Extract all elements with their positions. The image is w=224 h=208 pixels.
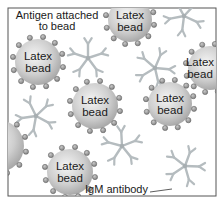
antigen-dot xyxy=(109,1,114,6)
antigen-dot xyxy=(51,189,56,194)
antigen-dot xyxy=(104,25,109,30)
antigen-dot xyxy=(60,51,65,56)
bead-label: Latexbead xyxy=(150,92,190,116)
bead-label-line1: Latex xyxy=(75,94,115,106)
antigen-dot xyxy=(189,49,194,54)
antigen-dot xyxy=(135,41,140,46)
antigen-dot xyxy=(175,125,180,130)
bead-label: Latexbead xyxy=(110,9,150,33)
antigen-dot xyxy=(151,22,156,27)
antigen-dot xyxy=(149,85,154,90)
antigen-dot xyxy=(22,134,27,139)
antigen-dot xyxy=(4,170,9,175)
antigen-dot xyxy=(112,120,117,125)
antigen-dot xyxy=(30,84,35,89)
antigen-dot xyxy=(191,106,196,111)
antigen-dot xyxy=(163,125,168,130)
antigen-dot xyxy=(55,76,60,81)
bead-label-line2: bead xyxy=(50,172,90,184)
bead-label: Latexbead xyxy=(75,94,115,118)
antigen-dot xyxy=(203,89,208,94)
antigen-dot xyxy=(103,13,108,18)
bead-label-line2: bead xyxy=(110,21,150,33)
antigen-dot xyxy=(144,109,149,114)
antigen-dot xyxy=(68,112,73,117)
antigen-dot xyxy=(117,108,122,113)
antigen-dot xyxy=(52,40,57,45)
antigen-dot xyxy=(160,78,165,83)
antigen-label: Antigen attached to bead xyxy=(14,10,100,32)
bead-label-line1: Latex xyxy=(18,50,58,62)
antigen-dot xyxy=(16,43,21,48)
antigen-dot xyxy=(10,54,15,59)
antigen-dot xyxy=(40,34,45,39)
bead-label-line2: bead xyxy=(150,104,190,116)
antigen-dot xyxy=(212,41,217,46)
antigen-dot xyxy=(87,128,92,133)
antigen-dot xyxy=(184,83,189,88)
antigen-dot xyxy=(109,84,114,89)
antigen-dot xyxy=(43,178,48,183)
antigen-label-line2: to bead xyxy=(14,21,100,32)
antigen-dot xyxy=(146,34,151,39)
bead-label-line1: Latex xyxy=(110,9,150,21)
antigen-dot xyxy=(27,35,32,40)
antigen-dot xyxy=(44,84,49,89)
antigen-dot xyxy=(17,162,22,167)
antigen-dot xyxy=(19,79,24,84)
bead-label-line1: Latex xyxy=(180,56,220,68)
bead-label: Latexbead xyxy=(180,56,220,80)
antigen-dot xyxy=(92,161,97,166)
bead-label: Latexbead xyxy=(50,160,90,184)
antigen-dot xyxy=(123,41,128,46)
antigen-dot xyxy=(60,64,65,69)
bead-label-line1: Latex xyxy=(50,160,90,172)
antigen-dot xyxy=(191,84,196,89)
antigen-dot xyxy=(101,128,106,133)
igm-antibody-label: IgM antibody xyxy=(85,184,148,195)
antigen-dot xyxy=(59,145,64,150)
antigen-dot xyxy=(84,150,89,155)
antigen-dot xyxy=(191,94,196,99)
antigen-dot xyxy=(23,149,28,154)
bead-label: Latexbead xyxy=(18,50,58,74)
antigen-dot xyxy=(151,10,156,15)
bead-label-line2: bead xyxy=(75,106,115,118)
antigen-dot xyxy=(72,144,77,149)
antigen-dot xyxy=(151,120,156,125)
antigen-dot xyxy=(186,118,191,123)
bead-label-line1: Latex xyxy=(150,92,190,104)
antigen-dot xyxy=(215,89,220,94)
bead-label-line2: bead xyxy=(180,68,220,80)
antigen-dot xyxy=(117,95,122,100)
antigen-dot xyxy=(67,98,72,103)
bead-label-line2: bead xyxy=(18,62,58,74)
antigen-dot xyxy=(84,79,89,84)
antigen-dot xyxy=(76,123,81,128)
antigen-dot xyxy=(111,36,116,41)
antigen-dot xyxy=(42,164,47,169)
antigen-dot xyxy=(200,42,205,47)
antigen-dot xyxy=(143,97,148,102)
antigen-dot xyxy=(48,153,53,158)
antigen-dot xyxy=(144,0,149,4)
antigen-dot xyxy=(73,87,78,92)
antigen-dot xyxy=(1,115,6,120)
antigen-dot xyxy=(92,174,97,179)
antigen-dot xyxy=(172,77,177,82)
antigen-dot xyxy=(11,68,16,73)
antigen-dot xyxy=(97,78,102,83)
antigen-dot xyxy=(62,194,67,199)
antigen-dot xyxy=(14,122,19,127)
